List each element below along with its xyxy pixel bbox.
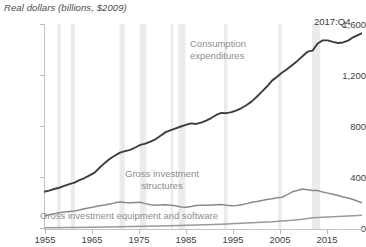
last-point-label: 2017:Q4: [314, 16, 350, 28]
structures-label-line2: structures: [108, 180, 216, 192]
consumption-label-line2: expenditures: [190, 50, 246, 62]
recession-band: [71, 24, 75, 229]
consumption-series-label: Consumption expenditures: [190, 38, 246, 61]
x-tick-label-1985: 1985: [166, 234, 206, 245]
x-tick-label-1975: 1975: [119, 234, 159, 245]
x-tick-label-1955: 1955: [25, 234, 65, 245]
equipment-series-label: Gross investment equipment and software: [40, 210, 218, 222]
x-tick-label-1965: 1965: [72, 234, 112, 245]
recession-band: [140, 24, 147, 229]
recession-band: [312, 24, 320, 229]
recession-band: [120, 24, 125, 229]
x-tick-label-2015: 2015: [307, 234, 347, 245]
recession-band: [57, 24, 61, 229]
chart-container: Real dollars (billions, $2009) 1,600 1,2…: [0, 0, 366, 247]
recession-bands: [57, 24, 320, 229]
consumption-label-line1: Consumption: [190, 38, 246, 50]
structures-series-label: Gross investment structures: [108, 168, 216, 191]
x-tick-label-1995: 1995: [213, 234, 253, 245]
x-tick-label-2005: 2005: [260, 234, 300, 245]
y-axis-title: Real dollars (billions, $2009): [4, 2, 127, 13]
structures-label-line1: Gross investment: [108, 168, 216, 180]
recession-band: [171, 24, 174, 229]
